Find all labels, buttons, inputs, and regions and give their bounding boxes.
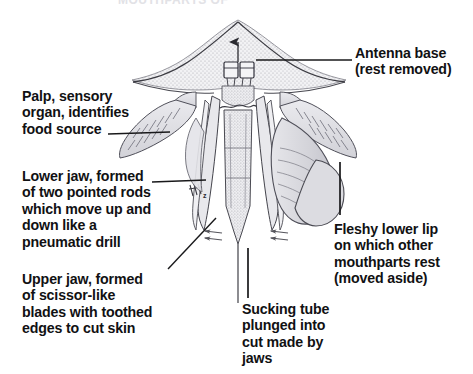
head-capsule-group xyxy=(132,20,346,93)
rod-marker-letter: z xyxy=(203,192,207,199)
leader-upper-jaw xyxy=(168,218,216,269)
label-lower-jaw: Lower jaw, formed of two pointed rods wh… xyxy=(22,168,151,250)
clypeus-group xyxy=(220,86,258,108)
label-antenna-base: Antenna base (rest removed) xyxy=(355,45,451,78)
label-fleshy-lower-lip: Fleshy lower lip on which other mouthpar… xyxy=(334,221,440,287)
figure-root: MOUTHPARTS OF xyxy=(0,0,473,374)
label-upper-jaw: Upper jaw, formed of scissor-like blades… xyxy=(22,271,152,337)
motion-arrow-group xyxy=(205,231,288,240)
label-sucking-tube: Sucking tube plunged into cut made by ja… xyxy=(242,301,329,367)
label-palp: Palp, sensory organ, identifies food sou… xyxy=(22,88,129,137)
